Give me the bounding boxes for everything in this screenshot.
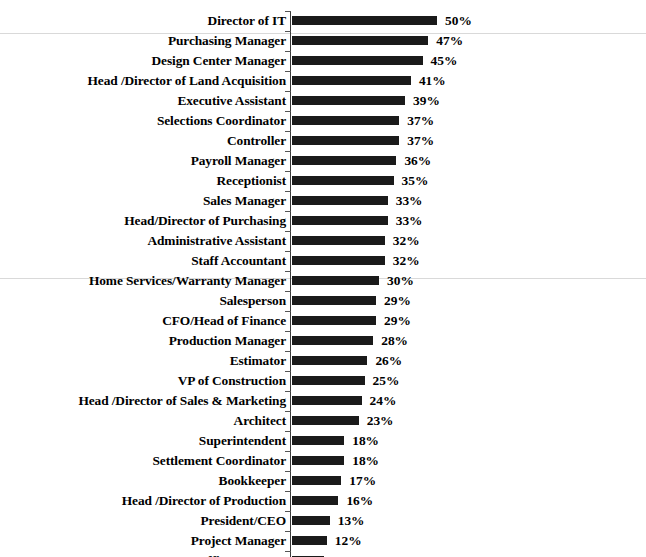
bar-row: Architect23% <box>0 411 646 431</box>
bar-row: Production Manager28% <box>0 331 646 351</box>
category-label: Sales Manager <box>203 191 286 211</box>
bar-row: Superintendent18% <box>0 431 646 451</box>
bar-row: Controller37% <box>0 131 646 151</box>
category-label: Receptionist <box>217 171 286 191</box>
bar <box>292 236 385 245</box>
category-label: VP of Construction <box>178 371 286 391</box>
category-label: Settlement Coordinator <box>152 451 286 471</box>
bar-value-label: 36% <box>404 151 431 171</box>
category-label: President/CEO <box>201 511 287 531</box>
category-label: Head /Director of Land Acquisition <box>88 71 286 91</box>
bar <box>292 296 376 305</box>
bar <box>292 16 437 25</box>
category-label: Staff Accountant <box>191 251 286 271</box>
category-label: Production Manager <box>169 331 286 351</box>
category-label: Head /Director of Production <box>122 491 286 511</box>
bar-row: President/CEO13% <box>0 511 646 531</box>
bar-value-label: 24% <box>370 391 397 411</box>
bar <box>292 396 362 405</box>
bar-row: Salesperson29% <box>0 291 646 311</box>
bar-value-label: 37% <box>407 131 434 151</box>
bar <box>292 196 388 205</box>
bar-row: Executive Assistant39% <box>0 91 646 111</box>
bar-row: Office Manager11% <box>0 551 646 557</box>
bar <box>292 216 388 225</box>
bar-row: Purchasing Manager47% <box>0 31 646 51</box>
bar-row: Bookkeeper17% <box>0 471 646 491</box>
category-label: Salesperson <box>219 291 286 311</box>
bar-value-label: 35% <box>402 171 429 191</box>
category-label: CFO/Head of Finance <box>162 311 286 331</box>
category-label: Office Manager <box>197 551 286 557</box>
category-label: Director of IT <box>208 11 286 31</box>
bar <box>292 436 344 445</box>
bar-value-label: 30% <box>387 271 414 291</box>
bar-value-label: 28% <box>381 331 408 351</box>
bar-row: Estimator26% <box>0 351 646 371</box>
category-label: Project Manager <box>191 531 286 551</box>
bar <box>292 316 376 325</box>
category-label: Payroll Manager <box>191 151 286 171</box>
bar-row: Administrative Assistant32% <box>0 231 646 251</box>
bar-row: Design Center Manager45% <box>0 51 646 71</box>
bar <box>292 176 394 185</box>
category-label: Home Services/Warranty Manager <box>89 271 286 291</box>
bar-value-label: 11% <box>332 551 358 557</box>
bar <box>292 456 344 465</box>
bar-row: Head/Director of Purchasing33% <box>0 211 646 231</box>
bar-value-label: 29% <box>384 291 411 311</box>
bar-value-label: 23% <box>367 411 394 431</box>
bar-row: Project Manager12% <box>0 531 646 551</box>
category-label: Head/Director of Purchasing <box>124 211 286 231</box>
bar-value-label: 47% <box>436 31 463 51</box>
bar-value-label: 33% <box>396 211 423 231</box>
bar-row: Payroll Manager36% <box>0 151 646 171</box>
bar-row: Head /Director of Land Acquisition41% <box>0 71 646 91</box>
bar <box>292 56 423 65</box>
bar-value-label: 26% <box>375 351 402 371</box>
bar-value-label: 32% <box>393 251 420 271</box>
bar <box>292 476 341 485</box>
category-label: Superintendent <box>199 431 286 451</box>
bar <box>292 256 385 265</box>
category-label: Bookkeeper <box>219 471 286 491</box>
bar <box>292 336 373 345</box>
bar <box>292 356 367 365</box>
bar-row: Staff Accountant32% <box>0 251 646 271</box>
bar-value-label: 50% <box>445 11 472 31</box>
bar-rows-container: Director of IT50%Purchasing Manager47%De… <box>0 11 646 557</box>
category-label: Executive Assistant <box>177 91 286 111</box>
bar <box>292 96 405 105</box>
bar <box>292 116 399 125</box>
bar-value-label: 16% <box>346 491 373 511</box>
bar-value-label: 39% <box>413 91 440 111</box>
bar <box>292 276 379 285</box>
bar-value-label: 18% <box>352 451 379 471</box>
bar <box>292 136 399 145</box>
bar-row: VP of Construction25% <box>0 371 646 391</box>
bar-row: Head /Director of Sales & Marketing24% <box>0 391 646 411</box>
bar <box>292 36 428 45</box>
category-label: Purchasing Manager <box>168 31 286 51</box>
bar <box>292 376 365 385</box>
bar-value-label: 33% <box>396 191 423 211</box>
category-label: Controller <box>227 131 286 151</box>
bar-row: Head /Director of Production16% <box>0 491 646 511</box>
bar <box>292 516 330 525</box>
bar <box>292 156 396 165</box>
bar-value-label: 13% <box>338 511 365 531</box>
bar-value-label: 18% <box>352 431 379 451</box>
bar-row: Home Services/Warranty Manager30% <box>0 271 646 291</box>
bar-row: Settlement Coordinator18% <box>0 451 646 471</box>
bar <box>292 76 411 85</box>
category-label: Architect <box>234 411 286 431</box>
bar-row: Sales Manager33% <box>0 191 646 211</box>
bar-row: CFO/Head of Finance29% <box>0 311 646 331</box>
category-label: Administrative Assistant <box>147 231 286 251</box>
bar-value-label: 45% <box>431 51 458 71</box>
bar-row: Selections Coordinator37% <box>0 111 646 131</box>
category-label: Design Center Manager <box>151 51 286 71</box>
bar-value-label: 25% <box>373 371 400 391</box>
category-label: Head /Director of Sales & Marketing <box>78 391 286 411</box>
bar-chart: Director of IT50%Purchasing Manager47%De… <box>0 0 646 557</box>
